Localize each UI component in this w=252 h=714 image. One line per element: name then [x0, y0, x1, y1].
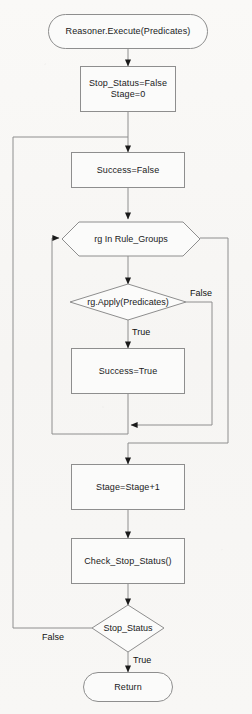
edge-label-stop-false-text: False	[42, 632, 64, 642]
edge-label-apply-true: True	[132, 327, 150, 337]
edge-label-stop-true: True	[133, 655, 151, 665]
edge-label-apply-false: False	[190, 288, 212, 298]
return-node: Return	[83, 672, 173, 702]
edge-inner-loop-return	[52, 238, 128, 434]
success-false-node: Success=False	[71, 152, 185, 188]
check-stop-status-node: Check_Stop_Status()	[71, 538, 185, 584]
success-true-node: Success=True	[71, 348, 185, 394]
flowchart-canvas: Reasoner.Execute(Predicates) Stop_Status…	[0, 0, 252, 714]
start-node: Reasoner.Execute(Predicates)	[48, 14, 208, 49]
stop-status-decision-shape	[92, 605, 164, 652]
success-false-node-label: Success=False	[97, 165, 160, 176]
success-true-node-label: Success=True	[99, 366, 158, 377]
return-node-label: Return	[114, 682, 142, 693]
init-node-label: Stop_Status=False Stage=0	[89, 78, 167, 100]
edge-label-stop-false: False	[42, 632, 64, 642]
loop-rule-groups-shape	[62, 222, 200, 256]
stage-increment-node: Stage=Stage+1	[71, 464, 185, 510]
edge-label-stop-true-text: True	[133, 655, 151, 665]
init-node: Stop_Status=False Stage=0	[80, 66, 176, 112]
stage-increment-node-label: Stage=Stage+1	[96, 482, 160, 493]
start-node-label: Reasoner.Execute(Predicates)	[66, 26, 191, 37]
apply-decision-shape	[70, 284, 186, 320]
edge-label-apply-true-text: True	[132, 327, 150, 337]
edge-label-apply-false-text: False	[190, 288, 212, 298]
check-stop-status-node-label: Check_Stop_Status()	[84, 556, 171, 567]
